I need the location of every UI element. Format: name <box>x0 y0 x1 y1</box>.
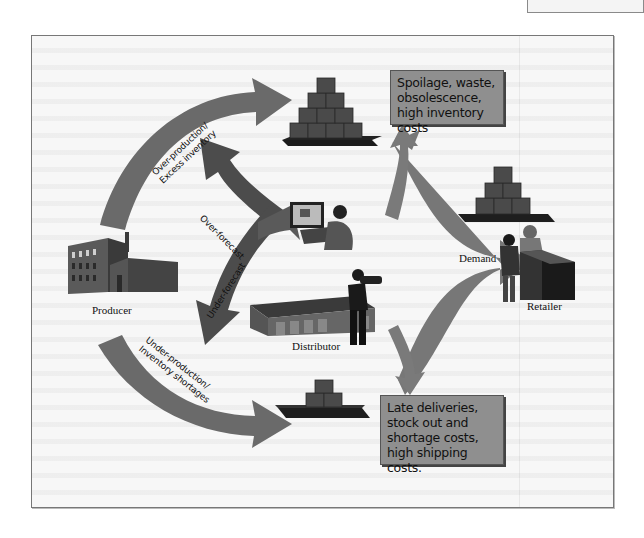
retailer-counter-icon <box>500 225 575 302</box>
person-with-binoculars-icon <box>348 269 382 345</box>
demand-label: Demand <box>459 252 496 264</box>
forecaster-at-computer-icon <box>290 202 353 250</box>
factory-icon <box>68 232 178 294</box>
distributor-label: Distributor <box>292 340 340 352</box>
shortage-inventory-pyramid-icon <box>275 380 370 418</box>
producer-label: Producer <box>92 304 132 316</box>
excess-inventory-pyramid-icon <box>282 78 382 146</box>
shortage-callout: Late deliveries, stock out and shortage … <box>380 395 504 465</box>
retailer-inventory-pyramid-icon <box>458 167 555 222</box>
retailer-label: Retailer <box>527 300 562 312</box>
excess-inventory-callout: Spoilage, waste, obsolescence, high inve… <box>390 70 504 125</box>
